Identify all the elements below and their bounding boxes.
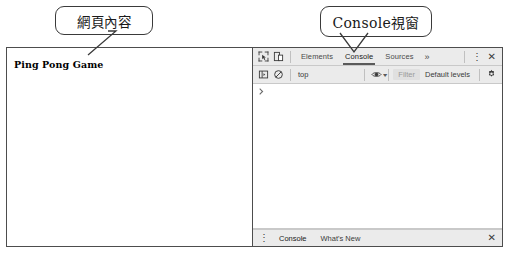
console-filter-input[interactable]: Filter [393,69,420,81]
chevron-down-icon: ▾ [384,72,388,78]
console-filter-toolbar: top ▾ Filter Default levels [253,66,502,84]
toolbar-divider [290,51,291,63]
webpage-callout-label: 網頁內容 [77,11,131,31]
console-prompt-chevron-icon [257,87,266,96]
tab-overflow-chevron-icon[interactable]: » [420,48,435,65]
console-output-area[interactable] [253,84,502,229]
javascript-context-select[interactable]: top ▾ [298,70,360,79]
devtools-drawer-bar: ⋮ Console What's New ✕ [253,229,502,246]
context-value: top [298,70,312,79]
filterbar-divider-4 [479,69,480,81]
drawer-tab-console[interactable]: Console [272,234,314,243]
console-callout-bubble: Console視窗 [320,6,432,37]
filterbar-divider-2 [364,69,365,81]
filterbar-divider-3 [388,69,389,81]
webpage-callout-tail [82,30,122,56]
tab-elements[interactable]: Elements [295,48,339,65]
clear-console-icon[interactable] [271,67,286,82]
filterbar-divider [290,69,291,81]
console-sidebar-icon[interactable] [256,67,271,82]
console-callout-tail [338,32,374,54]
inspect-element-icon[interactable] [256,49,271,64]
drawer-tab-whats-new[interactable]: What's New [314,234,368,243]
device-toolbar-icon[interactable] [271,49,286,64]
toolbar-divider-right [464,51,465,63]
close-devtools-icon[interactable]: ✕ [485,52,499,62]
gear-icon[interactable] [484,67,499,82]
tab-sources[interactable]: Sources [379,48,419,65]
browser-window-frame: Ping Pong Game Elements [6,47,503,247]
drawer-menu-kebab-icon[interactable]: ⋮ [256,233,272,243]
close-drawer-icon[interactable]: ✕ [485,233,499,243]
page-title: Ping Pong Game [14,59,103,70]
log-levels-select[interactable]: Default levels [420,70,475,79]
more-options-kebab-icon[interactable]: ⋮ [469,52,485,62]
devtools-tab-toolbar: Elements Console Sources » ⋮ ✕ [253,48,502,66]
devtools-panel: Elements Console Sources » ⋮ ✕ [253,48,502,246]
console-callout-label: Console視窗 [332,12,419,32]
live-expression-eye-icon[interactable] [369,67,384,82]
webpage-content-pane: Ping Pong Game [7,48,253,246]
